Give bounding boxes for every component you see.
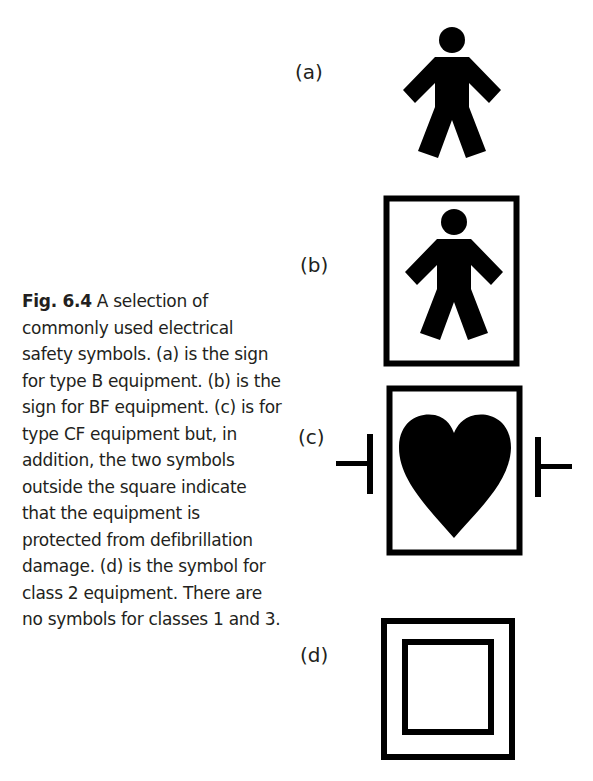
type-cf-defib-proof-heart-icon xyxy=(336,389,572,553)
type-b-person-icon xyxy=(403,27,501,158)
defibrillation-proof-right-icon xyxy=(535,437,572,497)
type-bf-person-in-box-icon xyxy=(387,199,517,364)
class-2-double-square-icon xyxy=(384,621,512,757)
symbols-canvas xyxy=(0,0,593,781)
defibrillation-proof-left-icon xyxy=(336,434,373,494)
